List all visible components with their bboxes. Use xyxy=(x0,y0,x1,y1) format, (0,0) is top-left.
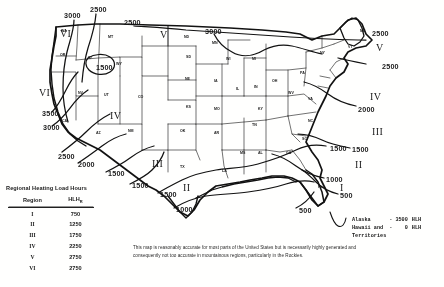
akhi-row: Hawaii and-0HLH xyxy=(352,224,424,232)
legend-row: IV2250 xyxy=(8,240,94,251)
state-label-30: OK xyxy=(180,130,185,134)
state-label-23: AZ xyxy=(96,132,101,136)
state-label-28: WV xyxy=(288,92,294,96)
state-label-33: NC xyxy=(308,120,313,124)
akhi-val-1: 0 xyxy=(395,224,411,232)
state-label-1: MT xyxy=(108,36,113,40)
legend-hlh-4: 2750 xyxy=(57,251,94,262)
contour-label-7: 1500 xyxy=(352,146,369,153)
region-label-1: V xyxy=(160,30,168,40)
legend-hlh-1: 1250 xyxy=(57,219,94,230)
akhi-place-2: Territories xyxy=(352,232,389,240)
state-label-9: MI xyxy=(252,58,256,62)
state-label-11: ME xyxy=(360,30,365,34)
state-label-18: IL xyxy=(236,88,239,92)
contour-label-13: 1500 xyxy=(160,191,177,198)
legend-hlh-0: 750 xyxy=(57,208,94,219)
state-label-24: NM xyxy=(128,130,134,134)
legend-hlh-3: 2250 xyxy=(57,240,94,251)
legend-row: VI2750 xyxy=(8,262,94,273)
state-label-16: NE xyxy=(185,78,190,82)
akhi-unit-0: HLH xyxy=(412,216,424,224)
legend-region-2: III xyxy=(8,230,57,241)
legend-region-0: I xyxy=(8,208,57,219)
legend-row: V2750 xyxy=(8,251,94,262)
region-label-10: I xyxy=(340,183,344,193)
legend-region-5: VI xyxy=(8,262,57,273)
region-label-5: IV xyxy=(370,92,381,102)
state-label-3: MN xyxy=(212,42,218,46)
state-label-15: CO xyxy=(138,96,143,100)
state-label-13: NV xyxy=(78,92,83,96)
contour-label-12: 1000 xyxy=(176,206,193,213)
legend-body: I750II1250III1750IV2250V2750VI2750 xyxy=(8,208,94,273)
state-label-37: MS xyxy=(240,152,245,156)
region-label-3: VI xyxy=(39,88,50,98)
akhi-unit-1: HLH xyxy=(412,224,424,232)
akhi-place-1: Hawaii and xyxy=(352,224,389,232)
legend-hlh-5: 2750 xyxy=(57,262,94,273)
state-label-38: AL xyxy=(258,152,263,156)
legend-row: II1250 xyxy=(8,219,94,230)
state-label-7: SD xyxy=(186,56,191,60)
contour-label-8: 1500 xyxy=(330,145,347,152)
state-label-12: VT xyxy=(348,46,353,50)
state-label-14: UT xyxy=(104,94,109,98)
contour-label-2: 2500 xyxy=(124,19,141,26)
state-label-20: OH xyxy=(272,80,277,84)
legend-row: III1750 xyxy=(8,230,94,241)
alaska-hawaii-note: Alaska-3500HLHHawaii and-0HLHTerritories xyxy=(352,216,424,240)
akhi-row: Alaska-3500HLH xyxy=(352,216,424,224)
state-label-34: SC xyxy=(302,138,307,142)
region-label-9: II xyxy=(183,183,190,193)
legend-region-3: IV xyxy=(8,240,57,251)
state-label-22: CA xyxy=(62,120,67,124)
legend-table: Region HLHR I750II1250III1750IV2250V2750… xyxy=(8,196,94,273)
legend-panel: Regional Heating Load Hours Region HLHR … xyxy=(6,185,98,273)
legend-region-1: II xyxy=(8,219,57,230)
heating-load-hours-map-page: 3000250025003000250025002000150015001000… xyxy=(0,0,444,287)
akhi-row: Territories xyxy=(352,232,424,240)
state-label-21: PA xyxy=(300,72,305,76)
contour-label-4: 2500 xyxy=(372,30,389,37)
state-label-40: FL xyxy=(318,186,322,190)
state-label-0: WA xyxy=(61,30,67,34)
contour-label-19: 2000 xyxy=(78,161,95,168)
contour-label-3: 3000 xyxy=(205,28,222,35)
contour-label-17: 3000 xyxy=(43,124,60,131)
alaska-hawaii-table: Alaska-3500HLHHawaii and-0HLHTerritories xyxy=(352,216,424,240)
state-label-8: WI xyxy=(226,58,230,62)
contour-label-15: 1500 xyxy=(96,64,113,71)
region-label-4: IV xyxy=(110,111,121,121)
legend-hlh-2: 1750 xyxy=(57,230,94,241)
contour-label-5: 2500 xyxy=(382,63,399,70)
contour-label-18: 2500 xyxy=(58,153,75,160)
legend-region-4: V xyxy=(8,251,57,262)
state-label-31: AR xyxy=(214,132,219,136)
state-label-26: MO xyxy=(214,108,220,112)
contour-label-1: 2500 xyxy=(90,6,107,13)
region-label-6: III xyxy=(372,127,383,137)
akhi-place-0: Alaska xyxy=(352,216,389,224)
akhi-val-2 xyxy=(395,232,411,240)
region-label-7: III xyxy=(152,159,163,169)
state-label-6: WY xyxy=(116,63,122,67)
akhi-val-0: 3500 xyxy=(395,216,411,224)
legend-col-hlh: HLHR xyxy=(57,196,94,208)
contour-label-20: 1500 xyxy=(108,170,125,177)
legend-col-region: Region xyxy=(8,196,57,208)
state-label-35: TX xyxy=(180,166,185,170)
region-label-2: V xyxy=(376,43,384,53)
contour-label-14: 1500 xyxy=(132,182,149,189)
state-label-19: IN xyxy=(254,86,258,90)
state-label-29: VA xyxy=(308,98,313,102)
state-label-25: KS xyxy=(186,106,191,110)
map-disclaimer: This map is reasonably accurate for most… xyxy=(133,244,377,260)
state-label-5: ID xyxy=(88,57,92,61)
contour-label-6: 2000 xyxy=(358,106,375,113)
legend-col-hlh-text: HLH xyxy=(68,196,80,202)
state-label-36: LA xyxy=(222,170,227,174)
state-label-2: ND xyxy=(184,36,189,40)
contour-label-11: 500 xyxy=(299,207,312,214)
region-label-8: II xyxy=(355,160,362,170)
